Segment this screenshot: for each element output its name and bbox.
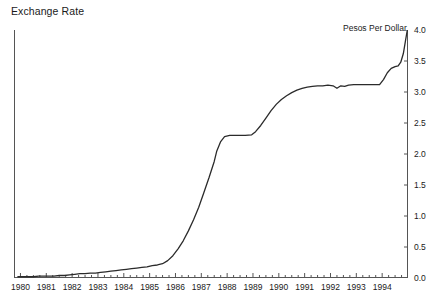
x-axis-tick-label: 1983	[88, 282, 107, 292]
y-axis-tick-label: 3.0	[414, 87, 426, 97]
y-axis-tick-label: 4.0	[414, 25, 426, 35]
plot-area	[14, 30, 408, 278]
x-axis-tick-label: 1989	[244, 282, 263, 292]
line-chart-svg	[14, 30, 408, 278]
y-axis-tick-label: 2.0	[414, 149, 426, 159]
x-axis-tick-label: 1993	[347, 282, 366, 292]
x-axis-tick-label: 1991	[295, 282, 314, 292]
x-axis-tick-label: 1981	[37, 282, 56, 292]
x-axis-tick-label: 1982	[63, 282, 82, 292]
x-axis-tick-label: 1987	[192, 282, 211, 292]
y-axis-tick-label: 0.0	[414, 273, 426, 283]
chart-page: Exchange Rate Pesos Per Dollar 4.03.53.0…	[0, 0, 433, 302]
page-title: Exchange Rate	[11, 5, 84, 17]
x-axis-tick-label: 1984	[114, 282, 133, 292]
y-axis-tick-label: 1.5	[414, 180, 426, 190]
y-axis-tick-label: 2.5	[414, 118, 426, 128]
x-axis-tick-label: 1990	[269, 282, 288, 292]
data-series-group	[18, 31, 407, 277]
x-axis-tick-label: 1986	[166, 282, 185, 292]
x-axis-tick-label: 1980	[11, 282, 30, 292]
y-axis-tick-label: 0.5	[414, 242, 426, 252]
y-axis-tick-label: 1.0	[414, 211, 426, 221]
y-axis-tick-label: 3.5	[414, 56, 426, 66]
data-line	[18, 31, 407, 277]
x-axis-tick-label: 1992	[321, 282, 340, 292]
x-axis-tick-label: 1985	[140, 282, 159, 292]
x-axis-tick-label: 1994	[373, 282, 392, 292]
x-axis-tick-label: 1988	[218, 282, 237, 292]
axes-group	[14, 30, 408, 278]
